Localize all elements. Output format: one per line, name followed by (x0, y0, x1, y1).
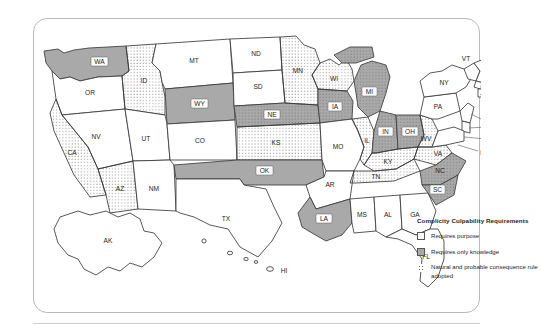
label-OK: OK (260, 167, 270, 174)
figure-frame: WA OR ID MT ND SD MN WI MI WY NE IA NV U… (33, 18, 480, 313)
label-PA: PA (434, 103, 443, 110)
us-choropleth-map: WA OR ID MT ND SD MN WI MI WY NE IA NV U… (34, 19, 481, 314)
legend-item-knowledge[interactable]: Requires only knowledge (417, 248, 541, 257)
legend-swatch-knowledge-icon (417, 248, 425, 256)
label-NY: NY (439, 79, 449, 86)
label-HI: HI (281, 267, 288, 274)
legend-swatch-natural-icon (417, 264, 425, 272)
legend-title: Complicity Culpability Requirements (417, 218, 541, 225)
legend-label-purpose: Requires purpose (431, 232, 479, 241)
legend-label-natural: Natural and probable consequence rule ad… (431, 263, 541, 281)
label-AR: AR (325, 181, 334, 188)
label-IN: IN (382, 128, 389, 135)
label-KS: KS (272, 139, 281, 146)
footer-divider (33, 323, 480, 324)
state-MA[interactable] (474, 81, 481, 89)
label-TN: TN (372, 173, 381, 180)
label-NM: NM (149, 185, 159, 192)
map-legend: Complicity Culpability Requirements Requ… (417, 218, 541, 288)
state-MT[interactable] (152, 39, 233, 89)
label-MN: MN (293, 67, 303, 74)
label-WI: WI (330, 75, 338, 82)
legend-label-knowledge: Requires only knowledge (431, 248, 499, 257)
label-CO: CO (195, 137, 205, 144)
legend-item-purpose[interactable]: Requires purpose (417, 232, 541, 241)
label-MO: MO (333, 143, 344, 150)
label-SC: SC (433, 186, 442, 193)
label-AZ: AZ (116, 185, 124, 192)
label-CA: CA (67, 149, 77, 156)
label-IA: IA (332, 103, 339, 110)
state-CT[interactable] (478, 89, 481, 97)
label-NE: NE (267, 111, 277, 118)
label-UT: UT (142, 135, 151, 142)
legend-item-natural[interactable]: Natural and probable consequence rule ad… (417, 263, 541, 281)
label-AK: AK (104, 237, 113, 244)
label-NV: NV (91, 133, 101, 140)
label-VA: VA (434, 150, 443, 157)
label-MS: MS (357, 211, 367, 218)
label-IL: IL (364, 137, 370, 144)
label-ND: ND (251, 50, 261, 57)
state-shapes (44, 36, 481, 287)
label-KY: KY (384, 158, 393, 165)
label-LA: LA (320, 215, 329, 222)
label-VT: VT (462, 55, 470, 62)
label-WY: WY (194, 100, 205, 107)
label-DC: DC (480, 149, 481, 156)
label-ID: ID (141, 77, 148, 84)
legend-swatch-purpose-icon (417, 232, 425, 240)
label-WV: WV (421, 135, 432, 142)
label-NC: NC (435, 167, 445, 174)
label-MT: MT (189, 57, 199, 64)
label-OH: OH (405, 128, 415, 135)
label-MI: MI (366, 88, 373, 95)
label-WA: WA (94, 58, 105, 65)
label-SD: SD (253, 83, 262, 90)
label-AL: AL (384, 211, 392, 218)
state-NJ[interactable] (460, 103, 474, 123)
label-OR: OR (85, 89, 95, 96)
label-TX: TX (222, 215, 231, 222)
